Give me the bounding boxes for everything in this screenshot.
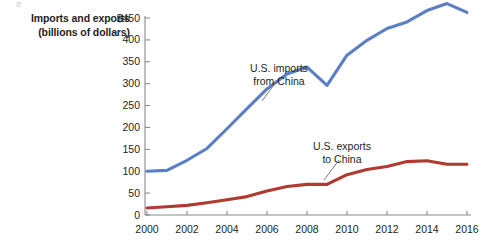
x-tick-label: 2016 (455, 223, 479, 235)
series-line-imports (147, 4, 467, 172)
y-tick-label: 300 (122, 77, 140, 89)
x-tick-label: 2008 (295, 223, 319, 235)
y-tick-label: 250 (122, 99, 140, 111)
line-chart-plot: $450400350300250200150100500 20002002200… (0, 0, 493, 247)
y-tick-label: 350 (122, 55, 140, 67)
y-tick-label: 200 (122, 121, 140, 133)
y-tick-label: 0 (134, 209, 140, 221)
y-tick-label: $450 (117, 12, 141, 24)
y-tick-label: 150 (122, 143, 140, 155)
x-tick-label: 2010 (335, 223, 359, 235)
y-tick-label: 400 (122, 33, 140, 45)
series-group (147, 4, 467, 208)
exports-annotation-line1: U.S. exports (313, 140, 371, 152)
x-tick-label: 2014 (415, 223, 439, 235)
series-line-exports (147, 161, 467, 208)
x-tick-label: 2006 (255, 223, 279, 235)
imports-annotation-line1: U.S. imports (250, 62, 308, 74)
exports-annotation-line2: to China (322, 153, 361, 165)
x-tick-label: 2012 (375, 223, 399, 235)
y-tick-label: 100 (122, 165, 140, 177)
figure-root: g Imports and exports (billions of dolla… (0, 0, 493, 247)
imports-annotation-line2: from China (253, 75, 305, 87)
x-tick-label: 2002 (175, 223, 199, 235)
x-tick-label: 2000 (135, 223, 159, 235)
y-tick-label: 50 (128, 187, 140, 199)
annotation-group: U.S. importsfrom ChinaU.S. exportsto Chi… (250, 62, 371, 180)
x-tick-label: 2004 (215, 223, 239, 235)
